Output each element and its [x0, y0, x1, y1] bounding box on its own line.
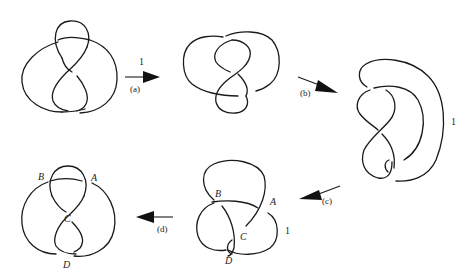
knot-5-label-A: A	[90, 172, 98, 183]
knot-5-label-C: C	[64, 213, 71, 224]
knot-4-label-1: 1	[285, 225, 290, 236]
knot-4	[197, 160, 277, 256]
arrowhead-d-icon	[136, 211, 154, 223]
knot-4-label-C: C	[240, 231, 247, 242]
knot-3	[357, 60, 443, 182]
knot-5-label-D: D	[62, 259, 71, 270]
knot-2-label-1: 1	[139, 56, 144, 67]
arrow-d: (d)	[136, 211, 173, 234]
arrow-b: (b)	[298, 77, 338, 98]
knot-4-label-B: B	[215, 188, 221, 199]
knot-3-label-1: 1	[451, 116, 456, 127]
arrow-a: (a)	[125, 71, 160, 94]
arrow-d-label: (d)	[157, 224, 168, 234]
arrowhead-b-icon	[315, 80, 338, 93]
arrow-c-label: (c)	[322, 196, 332, 206]
arrow-b-label: (b)	[300, 88, 311, 98]
knot-1	[22, 21, 117, 113]
arrowhead-a-icon	[143, 71, 160, 83]
knot-2	[183, 32, 279, 113]
arrowhead-c-icon	[299, 190, 322, 200]
arrow-c: (c)	[299, 186, 340, 206]
knot-4-label-A: A	[269, 196, 277, 207]
knot-5-label-B: B	[38, 171, 44, 182]
arrow-a-label: (a)	[130, 84, 140, 94]
knot-diagram-canvas: (a) (b) (c) (d) 1 1 B A C D 1 B A C D	[0, 0, 476, 276]
knot-4-label-D: D	[224, 255, 233, 266]
knot-5	[22, 166, 115, 256]
